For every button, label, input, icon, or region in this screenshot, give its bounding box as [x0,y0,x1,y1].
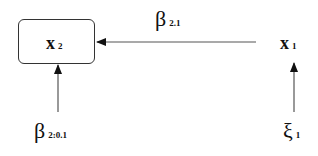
node-x1-label: x1 [280,34,297,52]
node-x1-subscript: 1 [292,41,297,51]
source-xi-1: ξ1 [283,120,300,142]
beta-subscript: 2.1 [169,18,180,28]
beta-symbol: β [155,6,166,31]
edge-label-beta-2-1: β2.1 [155,8,180,30]
source-beta-2-0-1: β2:0.1 [34,120,67,142]
node-x2-subscript: 2 [58,41,63,51]
xi-symbol: ξ [283,118,293,143]
node-x1-symbol: x [280,33,289,53]
beta-symbol: β [34,118,45,143]
xi-subscript: 1 [296,130,301,140]
path-diagram: x2 x1 β2.1 β2:0.1 ξ1 [0,0,318,156]
node-x2-label: x2 [46,34,63,52]
node-x2-symbol: x [46,33,55,53]
beta-subscript: 2:0.1 [48,130,67,140]
